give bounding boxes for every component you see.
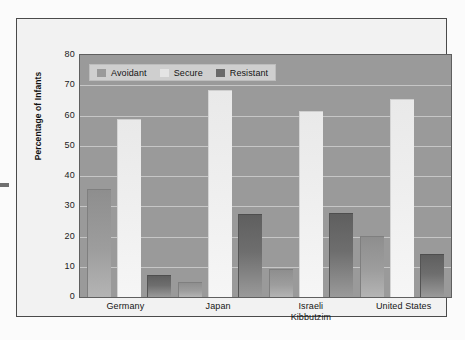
bar-united-states-avoidant (360, 236, 384, 298)
bar-israeli-kibbutzim-secure (299, 111, 323, 297)
y-axis-tick-label: 20 (35, 231, 75, 241)
x-axis-label-line: United States (376, 301, 431, 311)
y-axis-tick-label: 70 (35, 79, 75, 89)
chart-legend: AvoidantSecureResistant (89, 64, 276, 81)
bar-germany-avoidant (87, 189, 111, 297)
x-axis-label-israeli-kibbutzim: IsraeliKibbutzim (265, 301, 358, 323)
gridline (80, 85, 451, 86)
x-axis-label-line: Germany (107, 301, 145, 311)
bar-united-states-secure (390, 99, 414, 297)
bar-germany-secure (117, 119, 141, 297)
bar-germany-resistant (147, 275, 171, 297)
page-edge-mark (0, 183, 9, 187)
y-axis-tick-label: 30 (35, 200, 75, 210)
x-axis-label-germany: Germany (79, 301, 172, 312)
y-axis-tick-label: 80 (35, 49, 75, 59)
y-axis-tick-label: 60 (35, 110, 75, 120)
bar-israeli-kibbutzim-avoidant (269, 269, 293, 297)
legend-swatch-secure-icon (160, 69, 169, 77)
bar-israeli-kibbutzim-resistant (329, 213, 353, 297)
legend-item-resistant[interactable]: Resistant (216, 68, 268, 78)
legend-label: Resistant (230, 68, 268, 78)
x-axis-category-labels: GermanyJapanIsraeliKibbutzimUnited State… (79, 301, 452, 335)
bar-japan-resistant (238, 214, 262, 297)
bar-united-states-resistant (420, 254, 444, 297)
chart-figure-frame: Percentage of Infants 80706050403020100 … (16, 18, 447, 317)
x-axis-label-line: Japan (206, 301, 231, 311)
plot-area: AvoidantSecureResistant (79, 54, 452, 298)
legend-swatch-resistant-icon (216, 69, 225, 77)
legend-swatch-avoidant-icon (97, 69, 106, 77)
legend-label: Avoidant (111, 68, 147, 78)
y-axis-tick-label: 40 (35, 170, 75, 180)
y-axis-tick-label: 0 (35, 291, 75, 301)
x-axis-label-line: Israeli (299, 301, 324, 311)
bar-japan-avoidant (178, 282, 202, 297)
bar-japan-secure (208, 90, 232, 297)
legend-item-secure[interactable]: Secure (160, 68, 203, 78)
x-axis-label-line: Kibbutzim (265, 312, 358, 323)
legend-label: Secure (174, 68, 203, 78)
y-axis-tick-label: 50 (35, 140, 75, 150)
legend-item-avoidant[interactable]: Avoidant (97, 68, 147, 78)
y-axis-tick-label: 10 (35, 261, 75, 271)
x-axis-label-japan: Japan (172, 301, 265, 312)
y-axis-tick-labels: 80706050403020100 (31, 54, 75, 298)
x-axis-label-united-states: United States (357, 301, 450, 312)
